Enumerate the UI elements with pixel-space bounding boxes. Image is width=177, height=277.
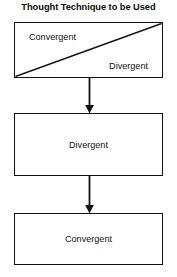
arrow-divergent-to-convergent	[84, 176, 95, 214]
diagram-canvas: Thought Technique to be Used Convergent …	[0, 0, 177, 277]
convergent-box-label: Convergent	[15, 234, 162, 244]
down-arrow-icon	[84, 77, 95, 114]
convergent-box: Convergent	[14, 213, 163, 265]
split-box-label-convergent: Convergent	[29, 32, 76, 42]
page-title: Thought Technique to be Used	[0, 2, 177, 12]
split-box-label-divergent: Divergent	[109, 61, 148, 71]
divergent-box: Divergent	[14, 113, 163, 176]
down-arrow-icon	[84, 176, 95, 214]
arrow-split-to-divergent	[84, 77, 95, 114]
split-technique-box: Convergent Divergent	[14, 22, 163, 78]
divergent-box-label: Divergent	[15, 140, 162, 150]
